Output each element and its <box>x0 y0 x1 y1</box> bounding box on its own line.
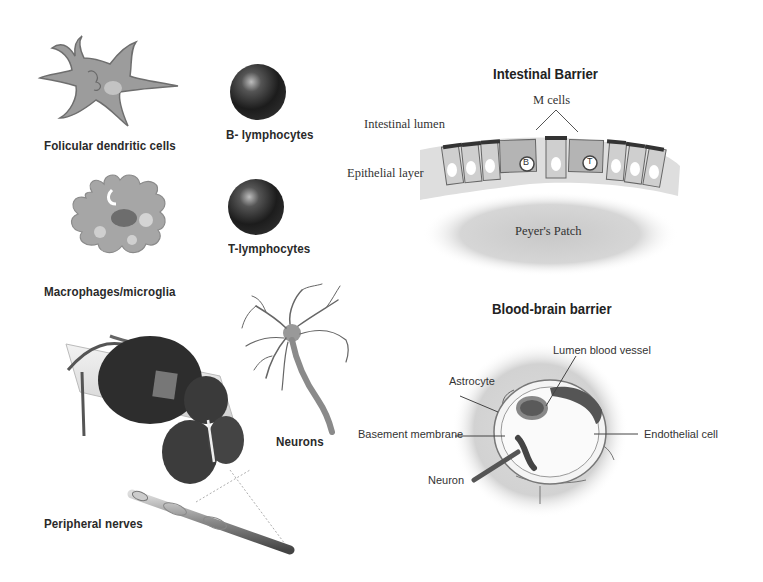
b-lymphocyte-illustration <box>230 64 286 120</box>
t-cell-marker-label: T <box>587 156 593 166</box>
label-neurons: Neurons <box>276 434 324 449</box>
label-neuron: Neuron <box>428 474 464 486</box>
blood-brain-barrier-title: Blood-brain barrier <box>492 300 612 317</box>
neuron-illustration <box>242 284 348 432</box>
blood-brain-barrier-illustration <box>452 342 638 518</box>
label-m-cells: M cells <box>533 93 570 108</box>
label-astrocyte: Astrocyte <box>449 375 495 387</box>
label-b-lymphocytes: B- lymphocytes <box>226 127 314 142</box>
label-intestinal-lumen: Intestinal lumen <box>364 117 445 132</box>
label-macrophages-microglia: Macrophages/microglia <box>44 284 175 299</box>
macrophage-illustration <box>72 175 165 253</box>
diagram-canvas: Folicular dendritic cells B- lymphocytes… <box>0 0 763 582</box>
label-endothelial-cell: Endothelial cell <box>644 428 718 440</box>
label-basement-membrane: Basement membrane <box>358 428 463 440</box>
label-lumen-blood-vessel: Lumen blood vessel <box>553 344 651 356</box>
t-lymphocyte-illustration <box>228 179 284 235</box>
intestinal-barrier-title: Intestinal Barrier <box>493 65 598 82</box>
intestinal-barrier-illustration <box>420 110 680 276</box>
follicular-dendritic-cell-illustration <box>40 36 178 126</box>
label-peripheral-nerves: Peripheral nerves <box>44 516 143 531</box>
label-peyers-patch: Peyer's Patch <box>515 224 581 239</box>
label-epithelial-layer: Epithelial layer <box>347 166 424 181</box>
label-t-lymphocytes: T-lymphocytes <box>228 241 310 256</box>
b-cell-marker-label: B <box>523 157 529 167</box>
label-follicular-dendritic-cells: Folicular dendritic cells <box>44 138 176 153</box>
